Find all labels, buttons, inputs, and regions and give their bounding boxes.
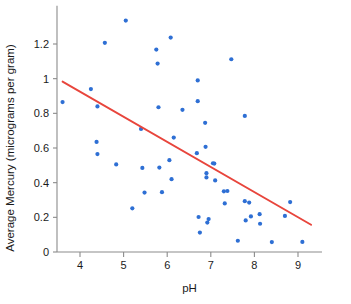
data-point xyxy=(167,158,171,162)
y-tick-label: 0 xyxy=(43,246,49,258)
data-point xyxy=(114,162,118,166)
data-point xyxy=(243,114,247,118)
data-point xyxy=(94,140,98,144)
data-point xyxy=(172,136,176,140)
data-point xyxy=(157,165,161,169)
data-point xyxy=(243,199,247,203)
trend-line xyxy=(63,82,312,225)
y-tick-label: 0.8 xyxy=(34,107,49,119)
data-point xyxy=(204,175,208,179)
data-point xyxy=(196,78,200,82)
data-point xyxy=(198,230,202,234)
x-tick-label: 6 xyxy=(164,259,170,271)
data-points-group xyxy=(60,19,304,245)
data-point xyxy=(169,35,173,39)
data-point xyxy=(270,240,274,244)
y-tick-label: 0.2 xyxy=(34,211,49,223)
x-tick-label: 4 xyxy=(77,259,83,271)
y-tick-group: 00.20.40.60.811.2 xyxy=(34,38,57,258)
x-tick-label: 8 xyxy=(251,259,257,271)
data-point xyxy=(195,151,199,155)
data-point xyxy=(225,189,229,193)
y-axis-group: 00.20.40.60.811.2 xyxy=(34,6,57,258)
data-point xyxy=(300,240,304,244)
data-point xyxy=(95,104,99,108)
data-point xyxy=(212,162,216,166)
data-point xyxy=(283,214,287,218)
x-tick-label: 9 xyxy=(295,259,301,271)
data-point xyxy=(288,200,292,204)
data-point xyxy=(142,190,146,194)
y-tick-label: 1 xyxy=(43,73,49,85)
data-point xyxy=(169,177,173,181)
data-point xyxy=(204,171,208,175)
plot-canvas: 00.20.40.60.811.2 456789 pH Average Merc… xyxy=(0,0,351,304)
data-point xyxy=(60,100,64,104)
x-axis-title: pH xyxy=(182,282,197,294)
scatter-plot-figure: 00.20.40.60.811.2 456789 pH Average Merc… xyxy=(0,0,351,304)
y-tick-label: 0.6 xyxy=(34,142,49,154)
data-point xyxy=(213,178,217,182)
data-point xyxy=(103,41,107,45)
data-point xyxy=(140,166,144,170)
data-point xyxy=(203,121,207,125)
x-tick-group: 456789 xyxy=(77,252,301,271)
y-axis-title: Average Mercury (micrograms per gram) xyxy=(4,44,16,252)
y-tick-label: 1.2 xyxy=(34,38,49,50)
data-point xyxy=(130,206,134,210)
data-point xyxy=(249,214,253,218)
x-tick-label: 5 xyxy=(121,259,127,271)
data-point xyxy=(203,145,207,149)
data-point xyxy=(258,222,262,226)
data-point xyxy=(180,108,184,112)
data-point xyxy=(156,61,160,65)
data-point xyxy=(223,201,227,205)
data-point xyxy=(258,212,262,216)
data-point xyxy=(95,152,99,156)
x-axis-group: 456789 xyxy=(57,252,322,271)
data-point xyxy=(207,217,211,221)
data-point xyxy=(154,47,158,51)
x-tick-label: 7 xyxy=(208,259,214,271)
data-point xyxy=(160,190,164,194)
data-point xyxy=(89,87,93,91)
data-point xyxy=(229,57,233,61)
data-point xyxy=(196,99,200,103)
data-point xyxy=(124,19,128,23)
data-point xyxy=(236,239,240,243)
data-point xyxy=(196,215,200,219)
data-point xyxy=(247,201,251,205)
data-point xyxy=(244,218,248,222)
y-tick-label: 0.4 xyxy=(34,177,49,189)
data-point xyxy=(156,105,160,109)
